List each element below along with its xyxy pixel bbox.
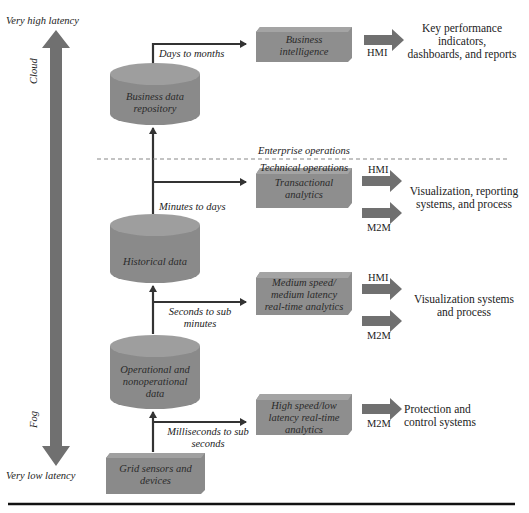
latency-axis-arrow <box>42 30 70 466</box>
hmi-label-medium-speed: HMI <box>368 272 388 284</box>
hmi-label-transactional: HMI <box>368 164 388 176</box>
m2m-label-high-speed: M2M <box>367 418 391 430</box>
grid-sensors-label: Grid sensors and devices <box>106 463 205 487</box>
cylinder-historical-data <box>110 214 200 283</box>
medium-speed-analytics-label: Medium speed/ medium latency real-time a… <box>256 277 352 313</box>
business-intelligence-label: Business intelligence <box>256 34 352 58</box>
high-speed-analytics-label: High speed/low latency real-time analyti… <box>256 400 352 436</box>
m2m-label-medium-speed: M2M <box>367 330 391 342</box>
timescale-seconds-to-sub-minutes: Seconds to sub minutes <box>160 306 240 330</box>
diagram-canvas <box>0 0 529 513</box>
timescale-days-to-months: Days to months <box>159 48 224 60</box>
timescale-milliseconds-to-sub-seconds: Milliseconds to sub seconds <box>160 426 256 450</box>
timescale-minutes-to-days: Minutes to days <box>159 201 226 213</box>
protection-control-output-label: Protection and control systems <box>404 403 504 429</box>
visualization-systems-output-label: Visualization systems and process <box>404 293 524 319</box>
hmi-label-business-intelligence: HMI <box>367 47 387 59</box>
fog-zone-label: Fog <box>28 411 40 428</box>
very-low-latency-label: Very low latency <box>6 470 75 482</box>
business-data-repository-label: Business data repository <box>110 91 200 115</box>
technical-operations-label: Technical operations <box>260 162 348 174</box>
enterprise-operations-label: Enterprise operations <box>258 145 350 157</box>
very-high-latency-label: Very high latency <box>6 15 79 27</box>
kpi-output-label: Key performance indicators, dashboards, … <box>402 22 522 61</box>
transactional-analytics-label: Transactional analytics <box>256 177 352 201</box>
cloud-zone-label: Cloud <box>28 58 40 84</box>
historical-data-label: Historical data <box>110 256 200 268</box>
operational-data-label: Operational and nonoperational data <box>110 364 200 400</box>
visualization-reporting-output-label: Visualization, reporting systems, and pr… <box>404 185 524 211</box>
m2m-label-transactional: M2M <box>367 222 391 234</box>
